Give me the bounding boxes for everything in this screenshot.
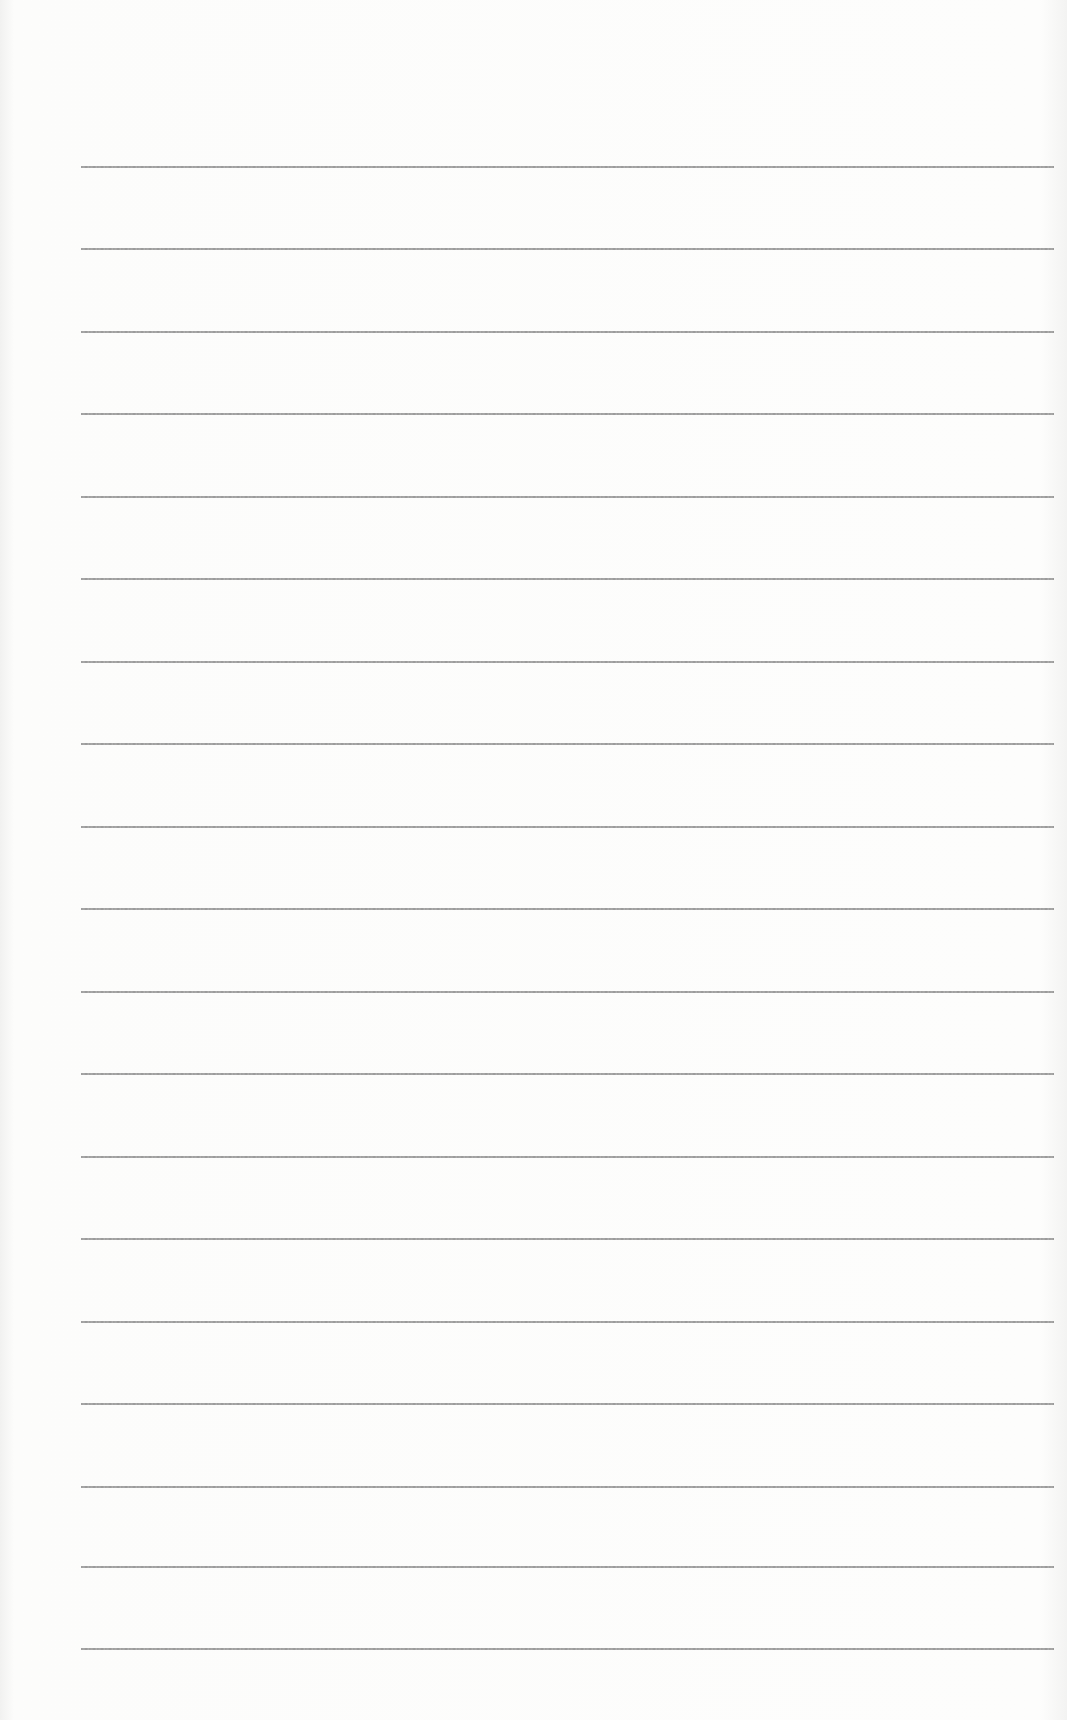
ruled-line bbox=[81, 578, 1054, 580]
ruled-line bbox=[81, 1648, 1054, 1650]
lined-paper-page bbox=[0, 0, 1067, 1720]
ruled-line bbox=[81, 1238, 1054, 1240]
ruled-line bbox=[81, 248, 1054, 250]
ruled-line bbox=[81, 991, 1054, 993]
ruled-line bbox=[81, 496, 1054, 498]
ruled-line bbox=[81, 413, 1054, 415]
ruled-line bbox=[81, 1156, 1054, 1158]
ruled-line bbox=[81, 743, 1054, 745]
ruled-line bbox=[81, 908, 1054, 910]
ruled-line bbox=[81, 661, 1054, 663]
ruled-line bbox=[81, 1073, 1054, 1075]
ruled-line bbox=[81, 826, 1054, 828]
ruled-line bbox=[81, 1566, 1054, 1568]
ruled-line bbox=[81, 1486, 1054, 1488]
ruled-line bbox=[81, 331, 1054, 333]
ruled-line bbox=[81, 166, 1054, 168]
ruled-line bbox=[81, 1321, 1054, 1323]
ruled-line bbox=[81, 1403, 1054, 1405]
